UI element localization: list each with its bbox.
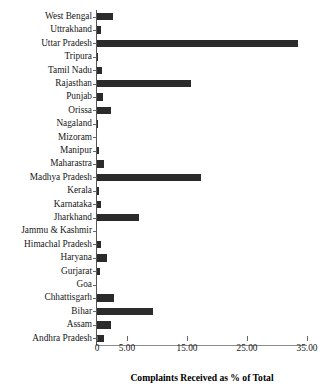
category-label: Kerala (67, 184, 92, 197)
bar (97, 26, 101, 33)
plot-area: West BengalUttrakhandUttar PradeshTripur… (97, 10, 307, 345)
bar (97, 40, 298, 47)
bar (97, 120, 98, 127)
bar-row: Rajasthan (97, 77, 307, 90)
category-label: Rajasthan (55, 77, 92, 90)
x-axis-tick-label: 5.00 (119, 343, 135, 353)
bar-row: Assam (97, 318, 307, 331)
x-axis-tick-label: 0 (95, 343, 100, 353)
bar-row: Jammu & Kashmir (97, 224, 307, 237)
category-label: Haryana (61, 251, 93, 264)
category-label: Orissa (68, 104, 92, 117)
bar (97, 160, 104, 167)
bar (97, 13, 113, 20)
x-axis-title: Complaints Received as % of Total (97, 372, 307, 383)
category-label: Goa (77, 278, 93, 291)
bar-row: Tripura (97, 50, 307, 63)
bar (97, 321, 111, 328)
bar (97, 294, 114, 301)
x-axis-tick (187, 336, 188, 341)
bar-row: Jharkhand (97, 211, 307, 224)
category-label: Uttar Pradesh (41, 37, 92, 50)
category-label: Assam (67, 318, 92, 331)
category-label: Tripura (64, 50, 92, 63)
bar (97, 147, 99, 154)
bar-row: Haryana (97, 251, 307, 264)
x-axis-tick (97, 336, 98, 341)
bar-row: Orissa (97, 104, 307, 117)
x-axis-tick (127, 336, 128, 341)
bar (97, 241, 101, 248)
bar-row: Kerala (97, 184, 307, 197)
category-label: Chhattisgarh (44, 291, 92, 304)
bar (97, 187, 99, 194)
bar (97, 53, 98, 60)
bar-row: Nagaland (97, 117, 307, 130)
category-label: Mizoram (58, 131, 92, 144)
x-axis-tick (307, 336, 308, 341)
x-axis-tick-label: 25.00 (237, 343, 258, 353)
category-label: West Bengal (45, 10, 92, 23)
bar (97, 93, 103, 100)
bar (97, 214, 139, 221)
x-axis-tick-label: 15.00 (177, 343, 198, 353)
category-label: Tamil Nadu (48, 64, 92, 77)
bar-chart: West BengalUttrakhandUttar PradeshTripur… (0, 0, 331, 391)
bar-row: Karnataka (97, 198, 307, 211)
bar (97, 67, 102, 74)
category-label: Jharkhand (54, 211, 92, 224)
bar-row: West Bengal (97, 10, 307, 23)
category-label: Madhya Pradesh (30, 171, 92, 184)
x-axis-tick-label: 35.00 (297, 343, 318, 353)
bar-row: Uttrakhand (97, 23, 307, 36)
bar-row: Bihar (97, 305, 307, 318)
bar-row: Tamil Nadu (97, 64, 307, 77)
category-label: Manipur (60, 144, 92, 157)
bar-row: Uttar Pradesh (97, 37, 307, 50)
category-label: Nagaland (56, 117, 92, 130)
bar-row: Mizoram (97, 131, 307, 144)
bar (97, 308, 153, 315)
y-axis-tick (93, 285, 97, 286)
category-label: Karnataka (54, 198, 92, 211)
bar-row: Himachal Pradesh (97, 238, 307, 251)
category-label: Punjab (66, 90, 92, 103)
category-label: Himachal Pradesh (24, 238, 92, 251)
bar-row: Gurjarat (97, 265, 307, 278)
bar (97, 254, 107, 261)
x-axis-tick (247, 336, 248, 341)
bar (97, 268, 100, 275)
bar-row: Madhya Pradesh (97, 171, 307, 184)
category-label: Andhra Pradesh (32, 332, 92, 345)
bar-row: Goa (97, 278, 307, 291)
bar (97, 107, 111, 114)
bar-row: Chhattisgarh (97, 291, 307, 304)
bar-row: Punjab (97, 90, 307, 103)
category-label: Jammu & Kashmir (21, 224, 92, 237)
bar-row: Manipur (97, 144, 307, 157)
category-label: Uttrakhand (50, 23, 92, 36)
bar-row: Maharastra (97, 157, 307, 170)
category-label: Maharastra (50, 157, 92, 170)
bar (97, 201, 101, 208)
bar (97, 80, 191, 87)
y-axis-tick (93, 231, 97, 232)
y-axis-tick (93, 137, 97, 138)
category-label: Gurjarat (61, 265, 92, 278)
bar (97, 174, 201, 181)
category-label: Bihar (71, 305, 92, 318)
